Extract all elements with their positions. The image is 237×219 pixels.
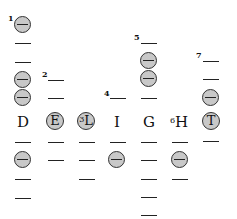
dash-marker xyxy=(15,62,31,63)
letter-i: I xyxy=(107,113,127,131)
dash-marker xyxy=(110,98,126,99)
circle-bar xyxy=(205,97,216,98)
circle-bar xyxy=(17,97,28,98)
letter-l-circled: 3L xyxy=(77,112,95,130)
circle-bar xyxy=(17,24,28,25)
dash-marker xyxy=(141,142,157,143)
dash-marker xyxy=(79,179,95,180)
dash-marker xyxy=(141,179,157,180)
dash-marker xyxy=(79,160,95,161)
letter-h-text: H xyxy=(175,113,188,131)
circle-bar xyxy=(111,159,122,160)
dash-marker xyxy=(48,160,64,161)
letter-g: G xyxy=(139,113,159,131)
dash-marker xyxy=(203,79,219,80)
letter-t-circled: T xyxy=(202,112,220,130)
dash-marker xyxy=(141,215,157,216)
column-number-5: 5 xyxy=(134,33,140,41)
circle-bar xyxy=(17,79,28,80)
puzzle-diagram: 1 D 2 E 3L 4 I 5 G 6H 7 T xyxy=(0,0,237,219)
column-number-7: 7 xyxy=(196,51,202,59)
circle-bar xyxy=(174,159,185,160)
circle-marker xyxy=(140,70,157,87)
dash-marker xyxy=(141,43,157,44)
letter-d: D xyxy=(13,113,33,131)
dash-marker xyxy=(48,142,64,143)
circle-marker xyxy=(14,71,31,88)
circle-bar xyxy=(17,159,28,160)
circle-marker xyxy=(14,151,31,168)
column-number-1: 1 xyxy=(8,14,14,22)
dash-marker xyxy=(15,179,31,180)
column-number-2: 2 xyxy=(42,70,48,78)
letter-e-circled: E xyxy=(46,112,64,130)
dash-marker xyxy=(203,141,219,142)
circle-marker xyxy=(202,89,219,106)
circle-bar xyxy=(143,60,154,61)
dash-marker xyxy=(48,80,64,81)
dash-marker xyxy=(15,43,31,44)
column-number-6: 6 xyxy=(170,116,175,125)
dash-marker xyxy=(141,160,157,161)
circle-marker xyxy=(108,151,125,168)
column-number-3: 3 xyxy=(79,115,84,124)
circle-marker xyxy=(14,16,31,33)
dash-marker xyxy=(48,98,64,99)
dash-marker xyxy=(141,197,157,198)
dash-marker xyxy=(15,198,31,199)
dash-marker xyxy=(110,142,126,143)
circle-marker xyxy=(140,52,157,69)
dash-marker xyxy=(172,179,188,180)
dash-marker xyxy=(15,142,31,143)
dash-marker xyxy=(172,142,188,143)
dash-marker xyxy=(79,142,95,143)
dash-marker xyxy=(203,61,219,62)
column-number-4: 4 xyxy=(104,89,110,97)
circle-marker xyxy=(171,151,188,168)
circle-marker xyxy=(14,89,31,106)
letter-l: L xyxy=(84,113,93,128)
letter-h: 6H xyxy=(166,113,192,131)
dash-marker xyxy=(141,98,157,99)
circle-bar xyxy=(143,78,154,79)
